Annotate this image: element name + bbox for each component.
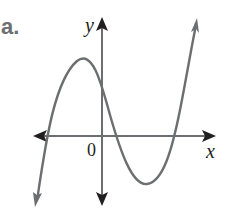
- y-axis: [96, 17, 108, 206]
- x-axis-label: x: [205, 140, 215, 162]
- cubic-curve: [33, 18, 199, 207]
- origin-label: 0: [87, 140, 96, 160]
- x-axis: [33, 130, 216, 142]
- y-axis-label: y: [83, 14, 94, 37]
- function-graph: y x 0: [0, 0, 230, 213]
